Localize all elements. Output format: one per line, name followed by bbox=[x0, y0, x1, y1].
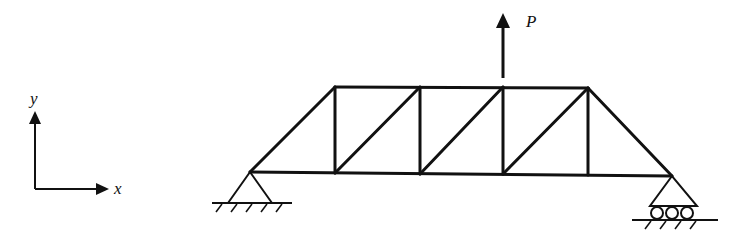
load-arrowhead-icon bbox=[496, 13, 510, 28]
y-axis-label: y bbox=[28, 89, 38, 108]
member-top-chord bbox=[335, 87, 588, 88]
x-arrowhead-icon bbox=[96, 183, 109, 195]
y-arrowhead-icon bbox=[29, 111, 41, 124]
roller-icon bbox=[681, 207, 693, 219]
load-label: P bbox=[525, 12, 536, 31]
x-axis-label: x bbox=[113, 179, 122, 198]
roller-icon bbox=[651, 207, 663, 219]
ground-hatch-icon bbox=[645, 221, 696, 229]
member-right-end-diagonal bbox=[588, 88, 672, 176]
member-bottom-chord bbox=[250, 172, 672, 176]
truss-members bbox=[250, 87, 672, 176]
member-diagonal-1 bbox=[335, 87, 420, 173]
member-left-end-diagonal bbox=[250, 87, 335, 172]
truss-diagram: y x P bbox=[0, 0, 734, 244]
ground-hatch-icon bbox=[216, 204, 282, 212]
member-diagonal-3 bbox=[503, 88, 588, 174]
roller-icon bbox=[666, 207, 678, 219]
truss-figure: y x P bbox=[0, 0, 734, 244]
coordinate-axes bbox=[29, 111, 109, 195]
roller-support bbox=[632, 176, 718, 229]
pin-support bbox=[212, 172, 292, 212]
load-arrow bbox=[496, 13, 510, 78]
member-diagonal-2 bbox=[420, 87, 503, 174]
